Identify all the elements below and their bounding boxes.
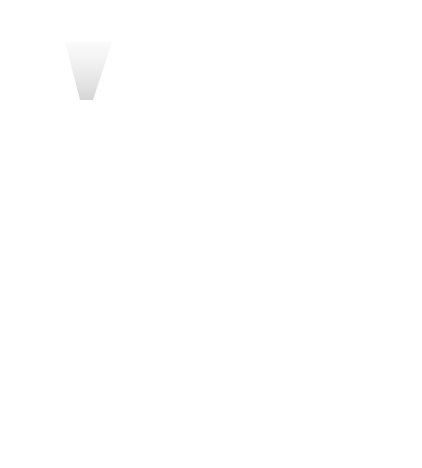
- str-inheritance-diagram: [0, 0, 422, 468]
- sequence-zoom-fan: [65, 42, 112, 100]
